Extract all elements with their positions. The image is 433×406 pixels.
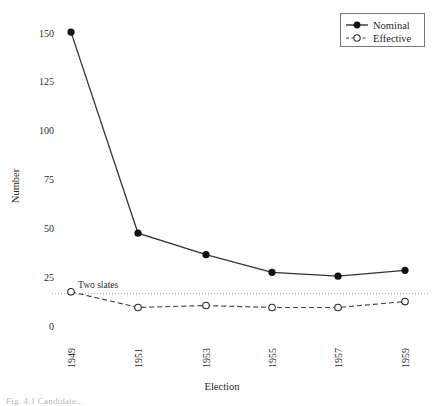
figure-caption: Fig. 4.1 Candidate... [6, 396, 83, 406]
y-axis-tick-labels: 150 125 100 75 50 25 0 [39, 28, 54, 332]
effective-point-1957 [335, 304, 342, 311]
effective-point-1953 [203, 302, 210, 309]
y-tick-label-100: 100 [39, 125, 54, 136]
effective-point-1959 [402, 298, 409, 305]
legend-effective-marker-icon [354, 35, 360, 41]
nominal-point-1959 [401, 267, 408, 274]
nominal-series-line [71, 32, 405, 276]
chart-legend[interactable]: Nominal Effective [341, 14, 425, 47]
x-tick-label-1957: 1957 [333, 348, 344, 368]
x-axis-tick-labels: 1949 1951 1953 1955 1957 1959 [66, 348, 411, 368]
x-tick-label-1955: 1955 [267, 348, 278, 368]
effective-point-1955 [269, 304, 276, 311]
y-tick-label-125: 125 [39, 76, 54, 87]
y-tick-label-0: 0 [49, 321, 54, 332]
y-tick-label-25: 25 [44, 272, 54, 283]
effective-point-1949 [68, 289, 75, 296]
nominal-point-1953 [202, 251, 209, 258]
x-tick-label-1949: 1949 [66, 348, 77, 368]
nominal-point-1957 [334, 273, 341, 280]
y-axis-title: Number [10, 168, 21, 203]
two-slates-annotation: Two slates [78, 280, 119, 290]
y-tick-label-150: 150 [39, 28, 54, 39]
legend-label-effective: Effective [373, 33, 412, 44]
line-chart: 150 125 100 75 50 25 0 Number Two slates [0, 0, 433, 406]
nominal-point-1955 [268, 269, 275, 276]
legend-label-nominal: Nominal [373, 20, 410, 31]
y-tick-label-75: 75 [44, 174, 54, 185]
nominal-series-markers [67, 28, 408, 279]
effective-series-markers [68, 289, 409, 311]
x-tick-label-1951: 1951 [133, 348, 144, 368]
y-tick-label-50: 50 [44, 223, 54, 234]
nominal-point-1949 [67, 28, 74, 35]
figure-container: 150 125 100 75 50 25 0 Number Two slates [0, 0, 433, 406]
x-tick-label-1959: 1959 [400, 348, 411, 368]
effective-point-1951 [135, 304, 142, 311]
x-tick-label-1953: 1953 [201, 348, 212, 368]
legend-nominal-marker-icon [354, 22, 361, 29]
x-axis-title: Election [205, 381, 241, 392]
nominal-point-1951 [134, 230, 141, 237]
